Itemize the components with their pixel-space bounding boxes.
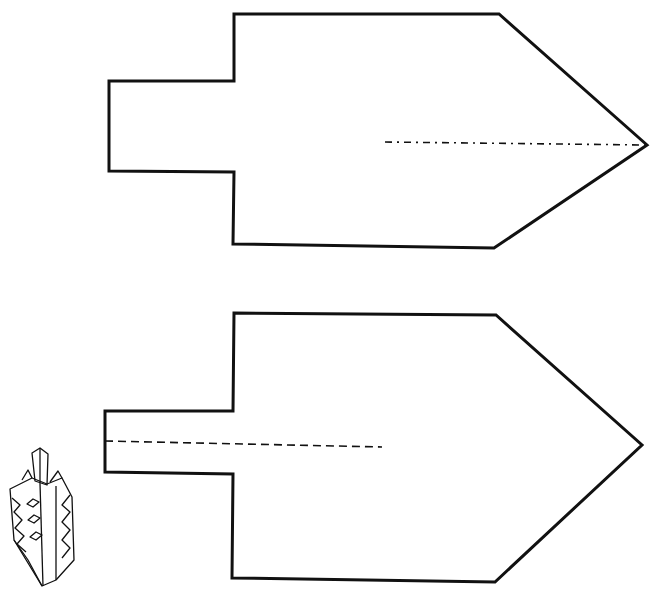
template-sheet	[0, 0, 662, 600]
pattern-piece-bottom	[105, 313, 642, 582]
piece-outline	[105, 313, 642, 582]
assembled-dreidel-illustration	[10, 448, 74, 586]
pattern-piece-top	[109, 14, 647, 248]
piece-outline	[109, 14, 647, 248]
fold-line	[105, 441, 382, 447]
fold-line	[385, 142, 645, 145]
